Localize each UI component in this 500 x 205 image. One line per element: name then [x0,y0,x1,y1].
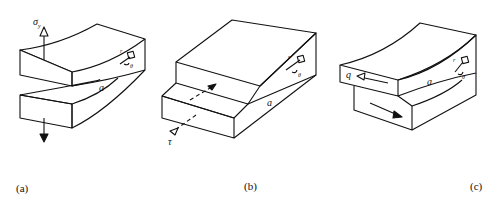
panel-c-blocks [340,23,476,130]
q-label: q [346,69,351,80]
caption-c: (c) [470,180,482,192]
r-label-b: r [288,54,290,60]
r-label-c: r [453,57,455,63]
crack-length-label-c: a [427,76,432,87]
theta-label-a: θ [130,63,133,69]
caption-b: (b) [244,180,257,192]
tau-label: τ [168,136,172,147]
panel-a-blocks [20,24,145,142]
theta-label-b: θ [298,72,301,78]
caption-a: (a) [16,182,28,194]
crack-length-label-a: a [99,82,104,93]
r-label-a: r [120,48,122,54]
fracture-modes-diagram [0,0,500,205]
panel-b-blocks [162,20,316,138]
sigma-y-label: σy [33,16,41,29]
theta-label-c: θ [462,74,465,80]
crack-length-label-b: a [267,97,272,108]
